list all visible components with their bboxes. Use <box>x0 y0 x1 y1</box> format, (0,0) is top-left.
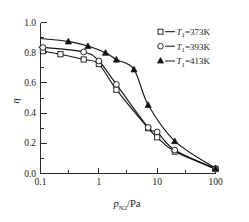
legend-entry-0[interactable]: T1=373K <box>158 27 210 38</box>
y-axis-title: η <box>10 98 21 103</box>
data-point-square <box>81 57 86 62</box>
data-point-circle <box>113 82 119 88</box>
y-tick-label: 1.0 <box>24 18 36 28</box>
open-square-icon <box>158 29 163 34</box>
data-point-triangle <box>113 56 119 62</box>
svg-text:T1=393K: T1=393K <box>177 42 211 53</box>
legend-entry-1[interactable]: T1=393K <box>158 42 211 53</box>
y-tick-label: 0.8 <box>24 48 36 58</box>
svg-text:pN2/Pa: pN2/Pa <box>113 198 141 211</box>
chart-figure: 0.0 0.2 0.4 0.6 0.8 1.0 0.1 1 10 100 η p… <box>0 0 249 222</box>
x-tick-label: 1 <box>96 177 101 187</box>
data-point-square <box>114 87 119 92</box>
data-point-square <box>58 52 63 57</box>
y-axis-minor-ticks <box>41 38 45 159</box>
curve-series-0 <box>41 51 216 169</box>
data-point-circle <box>172 147 178 153</box>
y-tick-labels: 0.0 0.2 0.4 0.6 0.8 1.0 <box>24 18 36 179</box>
data-point-triangle <box>145 102 151 108</box>
x-tick-label: 10 <box>152 177 162 187</box>
legend-label-value-2: =413K <box>185 56 211 66</box>
svg-text:T1=373K: T1=373K <box>177 27 211 38</box>
legend-label-value-1: =393K <box>185 42 211 52</box>
chart-legend: T1=373K T1=393K T1=413K <box>157 27 210 68</box>
y-tick-label: 0.2 <box>24 138 36 148</box>
data-point-triangle <box>102 50 108 56</box>
x-axis-title-unit: /Pa <box>127 198 141 209</box>
legend-label-value-0: =373K <box>185 27 211 37</box>
x-axis-title: pN2/Pa <box>113 198 141 211</box>
chart-plot-area: 0.0 0.2 0.4 0.6 0.8 1.0 0.1 1 10 100 η p… <box>0 0 249 222</box>
data-point-circle <box>96 58 102 64</box>
y-tick-label: 0.4 <box>24 108 36 118</box>
y-tick-label: 0.6 <box>24 78 36 88</box>
data-point-square <box>155 135 160 140</box>
legend-entry-2[interactable]: T1=413K <box>157 56 210 67</box>
x-axis-minor-ticks <box>68 170 185 174</box>
open-circle-icon <box>158 43 164 49</box>
data-point-circle <box>81 49 87 55</box>
x-axis-major-ticks <box>41 168 216 174</box>
data-point-circle <box>145 125 151 131</box>
x-tick-labels: 0.1 1 10 100 <box>35 177 223 187</box>
data-point-circle <box>154 129 160 135</box>
filled-triangle-icon <box>157 58 163 64</box>
x-tick-label: 100 <box>208 177 223 187</box>
data-point-circle <box>40 45 46 51</box>
svg-text:T1=413K: T1=413K <box>177 56 211 67</box>
x-tick-label: 0.1 <box>35 177 47 187</box>
